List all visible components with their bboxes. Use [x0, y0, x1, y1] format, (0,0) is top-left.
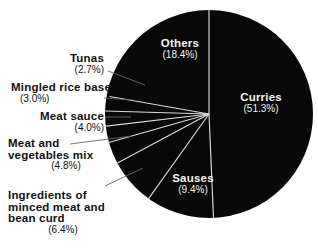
slice-label-others-value: (18.4%): [132, 50, 228, 60]
slice-label-meat-sauce: Meat sauce (4.0%): [0, 111, 104, 133]
slice-label-curries-name: Curries: [214, 92, 308, 104]
slice-label-tunas: Tunas (2.7%): [0, 53, 104, 75]
slice-label-mingled-rice-base-name: Mingled rice base: [0, 82, 111, 94]
slice-label-sauses-value: (9.4%): [155, 185, 231, 195]
slice-label-meat-and-vegetables-mix-line1: Meat and: [8, 138, 124, 150]
slice-label-curries: Curries (51.3%): [214, 92, 308, 114]
slice-label-ingredients-line1: Ingredients of: [8, 190, 140, 202]
slice-label-meat-and-vegetables-mix-value: (4.8%): [8, 161, 124, 171]
pie-chart: Others (18.4%) Curries (51.3%) Sauses (9…: [0, 0, 318, 249]
slice-label-ingredients-value: (6.4%): [8, 225, 140, 235]
slice-label-ingredients: Ingredients of minced meat and bean curd…: [8, 190, 140, 235]
slice-label-others-name: Others: [132, 38, 228, 50]
slice-label-sauses: Sauses (9.4%): [155, 173, 231, 195]
slice-label-tunas-value: (2.7%): [0, 65, 104, 75]
slice-label-meat-sauce-value: (4.0%): [0, 123, 104, 133]
slice-label-mingled-rice-base-value: (3.0%): [0, 94, 111, 104]
slice-label-curries-value: (51.3%): [214, 104, 308, 114]
slice-label-others: Others (18.4%): [132, 38, 228, 60]
slice-label-mingled-rice-base: Mingled rice base (3.0%): [0, 82, 111, 104]
slice-label-tunas-name: Tunas: [0, 53, 104, 65]
slice-label-meat-sauce-name: Meat sauce: [0, 111, 104, 123]
slice-label-meat-and-vegetables-mix: Meat and vegetables mix (4.8%): [8, 138, 124, 172]
slice-label-sauses-name: Sauses: [155, 173, 231, 185]
